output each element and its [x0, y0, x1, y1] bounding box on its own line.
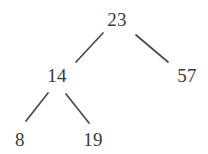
tree-node-right-leaf: 19 [83, 130, 103, 149]
tree-diagram-canvas: 23 14 57 8 19 [0, 0, 208, 154]
edge-14-19 [66, 94, 89, 123]
edge-23-14 [76, 33, 103, 62]
tree-node-root: 23 [107, 10, 127, 29]
tree-node-left-leaf: 8 [15, 130, 25, 149]
edge-14-8 [26, 93, 48, 121]
edge-23-57 [136, 35, 168, 62]
tree-node-left-child: 14 [47, 66, 67, 85]
tree-node-right-child: 57 [177, 66, 197, 85]
